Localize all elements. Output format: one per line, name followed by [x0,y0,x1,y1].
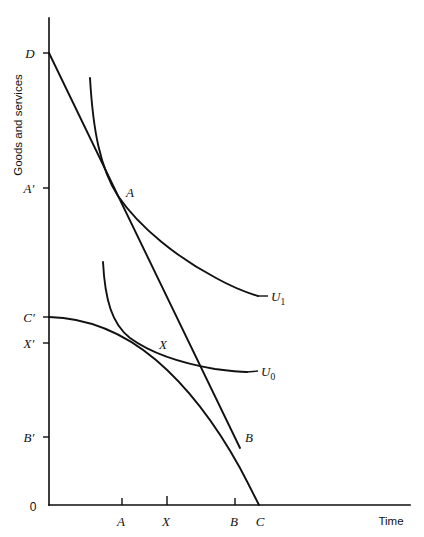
curve-u1 [90,78,258,296]
x-label-a: A [116,514,125,529]
x-label-c: C [256,514,265,529]
point-label-a: A [125,185,134,200]
origin-label: 0 [30,500,37,514]
leader-u0 [247,371,258,372]
y-label-b-prime: B′ [24,430,35,445]
curve-ppf [49,317,259,505]
curve-label-u0-sub: 0 [270,372,275,382]
y-label-a-prime: A′ [23,181,35,196]
curve-label-u0: U0 [261,364,275,382]
curve-label-u1-sub: 1 [280,297,285,307]
curve-u0 [103,262,247,372]
y-label-c-prime: C′ [23,310,35,325]
point-label-b: B [245,430,253,445]
x-axis-title: Time [378,515,403,527]
economics-diagram: D A′ C′ X′ B′ 0 A X B C A X B U1 U0 Good… [0,0,424,537]
figure-root: D A′ C′ X′ B′ 0 A X B C A X B U1 U0 Good… [0,0,424,537]
curve-label-u1: U1 [271,289,285,307]
y-label-d: D [24,46,35,61]
y-label-x-prime: X′ [23,336,35,351]
x-label-b: B [230,514,238,529]
point-label-x: X [158,337,168,352]
x-label-x: X [161,514,171,529]
y-axis-title: Goods and services [12,74,24,176]
line-budget-db [49,53,240,448]
